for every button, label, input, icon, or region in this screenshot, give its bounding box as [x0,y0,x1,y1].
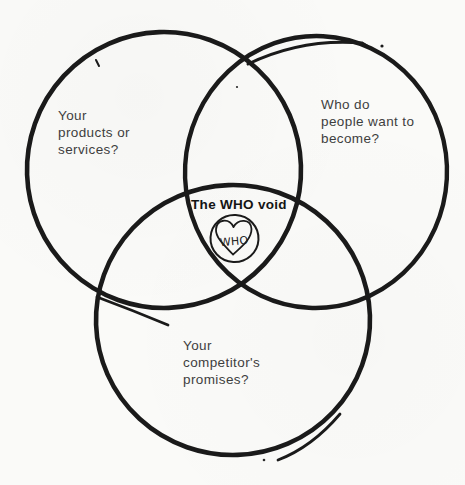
center-title: The WHO void [169,197,309,212]
who-heart-icon: WHO [209,214,259,263]
label-products-services: Your products or services? [58,107,173,158]
competitor-circle-pen-start-tail [97,297,168,325]
products-circle-pen-nib [96,60,99,66]
venn-diagram: WHO Your products or services? Who do pe… [0,0,465,485]
ink-speck [236,86,238,88]
ink-speck [380,44,383,47]
who-icon-text: WHO [219,234,249,249]
ink-speck [263,459,266,462]
products-circle-outline [22,27,305,312]
become-circle-outline [178,29,454,314]
competitor-circle-outline [91,180,374,459]
label-competitor-promises: Your competitor's promises? [183,337,308,388]
venn-circles-svg: WHO [0,0,465,485]
competitor-circle-pen-end-tail [278,414,340,460]
label-people-want-to-become: Who do people want to become? [321,96,446,147]
